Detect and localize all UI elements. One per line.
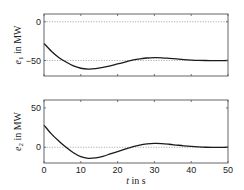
y-tick-label: 0: [36, 17, 41, 27]
y-axis-label: e1 in MW: [12, 25, 25, 65]
axes-frame: [44, 100, 228, 163]
y-axis-label: e2 in MW: [12, 111, 25, 151]
x-tick-label: 40: [186, 165, 196, 175]
x-tick-label: 10: [76, 165, 86, 175]
figure: −500e1 in MW 01020304050050e2 in MWt in …: [0, 0, 244, 190]
x-tick-label: 0: [41, 165, 46, 175]
y-tick-label: −50: [26, 56, 41, 66]
axes-frame: [44, 14, 228, 76]
top-plot-e1: −500e1 in MW: [12, 14, 228, 76]
y-tick-label: 0: [36, 142, 41, 152]
x-tick-label: 50: [223, 165, 233, 175]
bottom-plot-e2: 01020304050050e2 in MWt in s: [12, 100, 233, 186]
series-line-e1: [44, 43, 228, 69]
x-tick-label: 30: [149, 165, 159, 175]
x-tick-label: 20: [113, 165, 123, 175]
x-axis-label: t in s: [126, 175, 146, 186]
series-line-e2: [44, 125, 228, 158]
y-tick-label: 50: [31, 103, 41, 113]
